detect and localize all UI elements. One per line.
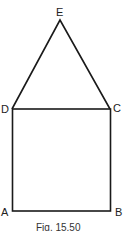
label-c: C	[113, 102, 121, 114]
figure-caption: Fig. 15.50	[36, 222, 81, 231]
triangle-dec	[12, 20, 110, 109]
label-b: B	[115, 206, 122, 218]
label-a: A	[1, 206, 9, 218]
geometry-figure: E D C A B Fig. 15.50	[0, 0, 125, 231]
label-e: E	[56, 6, 63, 18]
label-d: D	[1, 103, 9, 115]
square-abcd	[13, 109, 111, 211]
